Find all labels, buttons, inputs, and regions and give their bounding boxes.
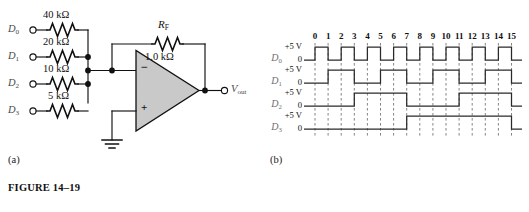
input-terminal-d3	[30, 108, 36, 114]
tick-label-0: 0	[309, 32, 322, 41]
tick-label-14: 14	[492, 32, 505, 41]
figure-14-19: 40 kΩ 20 kΩ 10 kΩ 5 kΩ D0 D1 D2 D3 RF 1.…	[0, 0, 529, 212]
resistor-feedback	[152, 38, 183, 51]
tick-label-12: 12	[466, 32, 479, 41]
waveform-d2	[304, 93, 522, 106]
tick-label-13: 13	[479, 32, 492, 41]
resistor-d2	[47, 78, 78, 91]
timing-row-label-d0-name: D	[271, 52, 278, 63]
feedback-resistor-symbol: RF	[158, 19, 169, 32]
timing-gridlines	[315, 43, 512, 136]
level-label-d3-high: +5 V	[262, 111, 302, 120]
circuit-panel: 40 kΩ 20 kΩ 10 kΩ 5 kΩ D0 D1 D2 D3 RF 1.…	[0, 0, 268, 212]
tick-label-2: 2	[335, 32, 348, 41]
waveform-d1	[304, 70, 522, 83]
timing-row-label-d1-index: 1	[279, 80, 282, 87]
feedback-resistor-symbol-sub: F	[165, 23, 169, 32]
tick-label-4: 4	[361, 32, 374, 41]
level-label-d2-high: +5 V	[262, 88, 302, 97]
input-label-d3: D3	[8, 105, 19, 117]
input-label-d2: D2	[8, 78, 19, 90]
input-terminal-d1	[30, 54, 36, 60]
resistor-value-d0: 40 kΩ	[43, 10, 69, 21]
timing-row-label-d2: D2	[262, 99, 282, 111]
timing-row-label-d2-index: 2	[279, 103, 282, 110]
input-label-d2-index: 2	[16, 82, 20, 90]
output-label: Vout	[231, 84, 247, 96]
input-label-d2-name: D	[8, 77, 16, 88]
feedback-resistor-symbol-letter: R	[158, 18, 165, 30]
output-terminal	[221, 87, 227, 93]
junction-dot-feedback	[109, 68, 115, 74]
output-label-index: out	[237, 88, 246, 96]
tick-label-9: 9	[426, 32, 439, 41]
figure-caption: FIGURE 14–19	[8, 183, 80, 194]
tick-label-6: 6	[387, 32, 400, 41]
tick-label-3: 3	[348, 32, 361, 41]
junction-dot-d1	[85, 54, 91, 60]
tick-label-15: 15	[505, 32, 518, 41]
part-a-label: (a)	[8, 155, 20, 166]
input-label-d0: D0	[8, 24, 19, 36]
waveform-d0	[304, 47, 522, 60]
resistor-d3	[47, 105, 78, 118]
junction-dot-output	[202, 88, 208, 94]
input-label-d1-index: 1	[16, 55, 20, 63]
input-label-d0-index: 0	[16, 28, 20, 36]
timing-row-label-d3-name: D	[271, 121, 278, 132]
tick-label-5: 5	[374, 32, 387, 41]
timing-row-label-d0: D0	[262, 53, 282, 65]
tick-label-11: 11	[453, 32, 466, 41]
timing-panel: 0 1 2 3 4 5 6 7 8 9 10 11 12 13 14 15 +5…	[262, 0, 529, 212]
feedback-resistor-value: 1.0 kΩ	[145, 52, 174, 63]
input-terminal-d2	[30, 81, 36, 87]
timing-row-label-d3-index: 3	[279, 126, 282, 133]
timing-row-label-d2-name: D	[271, 98, 278, 109]
level-label-d1-high: +5 V	[262, 65, 302, 74]
circuit-schematic	[0, 0, 268, 212]
resistor-value-d1: 20 kΩ	[43, 37, 69, 48]
input-label-d3-name: D	[8, 104, 16, 115]
input-label-d3-index: 3	[16, 109, 20, 117]
tick-label-10: 10	[440, 32, 453, 41]
resistor-d0	[47, 24, 78, 37]
resistor-value-d2: 10 kΩ	[43, 64, 69, 75]
input-label-d0-name: D	[8, 23, 16, 34]
waveform-d3	[304, 116, 522, 129]
input-terminal-d0	[30, 27, 36, 33]
opamp-inverting-input-label: −	[141, 61, 148, 73]
timing-row-label-d0-index: 0	[279, 57, 282, 64]
tick-label-8: 8	[413, 32, 426, 41]
input-label-d1-name: D	[8, 50, 16, 61]
timing-row-label-d1-name: D	[271, 75, 278, 86]
timing-row-label-d3: D3	[262, 122, 282, 134]
resistor-d1	[47, 51, 78, 64]
tick-label-1: 1	[322, 32, 335, 41]
timing-row-label-d1: D1	[262, 76, 282, 88]
opamp-noninverting-input-label: +	[141, 102, 147, 113]
resistor-value-d3: 5 kΩ	[48, 91, 69, 102]
junction-dot-d2	[85, 81, 91, 87]
part-b-label: (b)	[270, 155, 282, 166]
input-label-d1: D1	[8, 51, 19, 63]
tick-label-7: 7	[400, 32, 413, 41]
level-label-d0-high: +5 V	[262, 42, 302, 51]
junction-dot-summing	[85, 68, 91, 74]
